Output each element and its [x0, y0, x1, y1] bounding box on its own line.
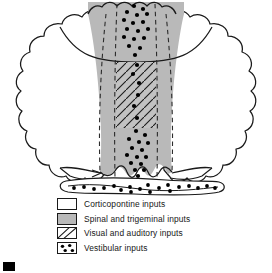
legend-item-spinal-trigeminal: Spinal and trigeminal inputs [57, 212, 257, 227]
flocculonodular-lobe-region [60, 178, 224, 195]
legend-swatch-dots-icon [57, 242, 77, 254]
legend-label-visual-auditory: Visual and auditory inputs [84, 229, 183, 237]
legend-swatch-diagonal-hatch-icon [57, 227, 77, 239]
legend-label-vestibular: Vestibular inputs [84, 244, 148, 252]
legend-label-spinal-trigeminal: Spinal and trigeminal inputs [84, 215, 190, 223]
cerebellum-input-zones-figure: Corticopontine inputs Spinal and trigemi… [0, 0, 272, 273]
legend-item-visual-auditory: Visual and auditory inputs [57, 226, 257, 241]
legend-swatch-solid-gray-icon [57, 213, 77, 225]
legend-item-corticopontine: Corticopontine inputs [57, 197, 257, 212]
legend: Corticopontine inputs Spinal and trigemi… [57, 197, 257, 255]
corner-registration-mark [3, 262, 15, 271]
legend-item-vestibular: Vestibular inputs [57, 241, 257, 256]
legend-swatch-solid-white-icon [57, 198, 77, 210]
legend-label-corticopontine: Corticopontine inputs [84, 200, 165, 208]
